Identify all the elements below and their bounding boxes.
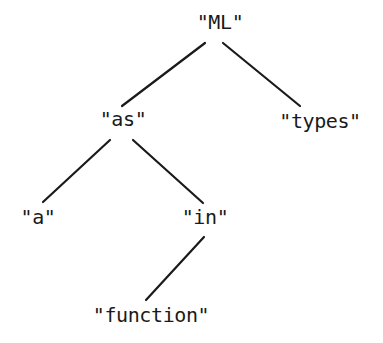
tree-node-root: "ML": [197, 12, 244, 32]
tree-edge-as-to-a: [43, 140, 110, 202]
tree-node-a: "a": [21, 207, 56, 227]
tree-edge-in-to-function: [146, 237, 204, 300]
tree-node-function: "function": [93, 305, 209, 325]
parse-tree-figure: "ML""as""types""a""in""function": [0, 0, 383, 343]
tree-edge-root-to-as: [122, 43, 205, 106]
tree-node-in: "in": [182, 207, 229, 227]
tree-edge-root-to-types: [223, 43, 300, 106]
tree-edge-as-to-in: [133, 140, 203, 203]
tree-node-types: "types": [279, 111, 361, 131]
tree-node-as: "as": [100, 109, 147, 129]
tree-edge-layer: [0, 0, 383, 343]
